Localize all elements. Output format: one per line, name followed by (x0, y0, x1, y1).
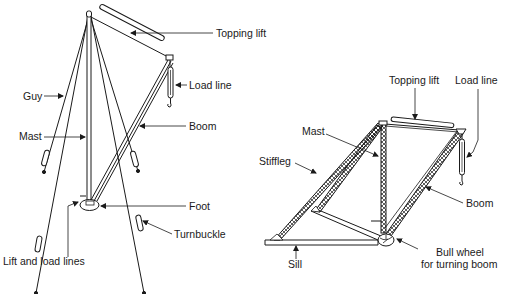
mast-cap (379, 121, 387, 125)
load-line-block (460, 134, 465, 185)
derrick-diagram: Topping lift Load line Guy Mast Boom Foo… (0, 0, 517, 294)
label-bull-wheel-purpose: for turning boom (421, 258, 498, 270)
hook-icon (168, 98, 171, 107)
label-boom: Boom (466, 197, 494, 209)
boom (385, 131, 463, 236)
label-mast: Mast (302, 125, 325, 137)
topping-lift (385, 117, 459, 132)
label-foot: Foot (189, 200, 210, 212)
hook-icon (460, 175, 463, 185)
label-stiffleg: Stiffleg (259, 155, 291, 167)
topping-lift (91, 4, 170, 58)
label-topping-lift: Topping lift (389, 74, 439, 86)
leader-lines-left (44, 33, 213, 257)
label-mast: Mast (19, 130, 42, 142)
boom-head (166, 55, 173, 60)
label-bull-wheel: Bull wheel (436, 246, 484, 258)
label-load-line: Load line (455, 74, 498, 86)
label-topping-lift: Topping lift (216, 27, 266, 39)
label-boom: Boom (189, 120, 217, 132)
label-turnbuckle: Turnbuckle (174, 228, 226, 240)
label-guy: Guy (23, 90, 43, 102)
guy-derrick: Topping lift Load line Guy Mast Boom Foo… (3, 4, 266, 294)
load-line-block (168, 60, 173, 107)
mast (87, 11, 92, 204)
stiffleg-derrick: Topping lift Load line Mast Stiffleg Boo… (259, 74, 498, 270)
label-lift-and-load-lines: Lift and load lines (3, 255, 85, 267)
stiffleg-back (311, 125, 382, 212)
mast (381, 123, 386, 233)
label-load-line: Load line (189, 79, 232, 91)
label-sill: Sill (288, 258, 302, 270)
